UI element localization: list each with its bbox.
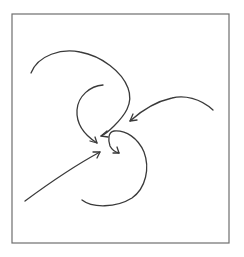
- diagram-canvas: [0, 0, 244, 257]
- arrow-right-arc: [130, 97, 213, 121]
- arrow-inner-arc: [77, 85, 103, 143]
- diagram-frame: [12, 14, 229, 243]
- arrow-lower-left-line: [25, 152, 100, 201]
- arrow-outer-top-left-arc: [31, 51, 130, 137]
